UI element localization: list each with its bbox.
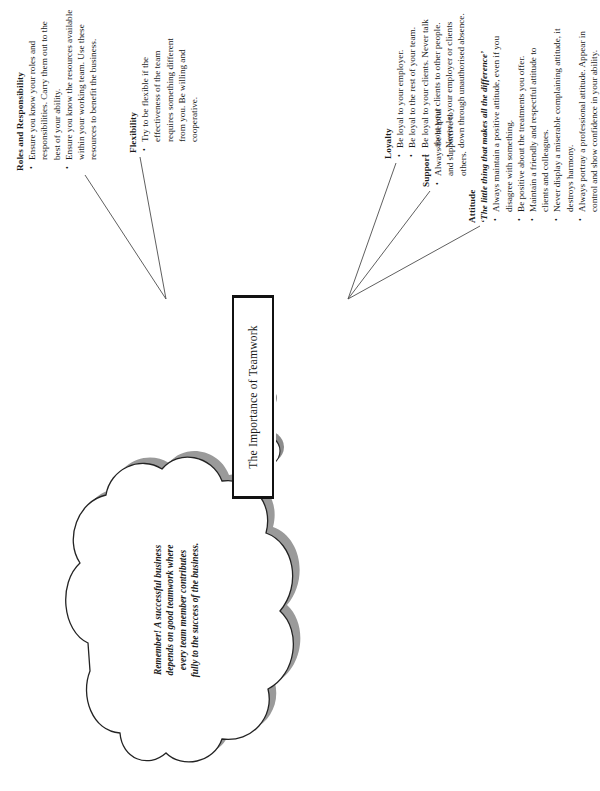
center-node-label: The Importance of Teamwork [247,325,260,469]
branch-support[interactable]: Support Always be helpful and supportive… [420,95,469,187]
cloud-text-line: fully to the success of the business. [189,525,201,695]
branch-bullet-list: Always maintain a positive attitude, eve… [490,23,600,223]
branch-title: Support [420,95,432,187]
branch-bullet-list: Ensure you know your roles and responsib… [26,9,99,171]
connector-flexibility [140,157,166,299]
branch-bullet: Maintain a friendly and respectful attit… [527,23,551,212]
branch-subtitle: ‘The little thing that makes all the dif… [478,23,490,223]
connector-attitude [348,226,480,299]
branch-roles-and-responsibility[interactable]: Roles and Responsibility Ensure you know… [14,9,99,171]
connector-support [348,191,430,299]
branch-flexibility[interactable]: Flexibility Try to be flexible if the ef… [127,33,200,153]
cloud-text-line: Remember! A successful business [152,525,164,695]
center-node-inner: The Importance of Teamwork [233,297,273,497]
center-node[interactable]: The Importance of Teamwork [232,295,274,499]
branch-title: Roles and Responsibility [14,9,26,171]
branch-bullet-list: Try to be flexible if the effectiveness … [139,33,200,153]
branch-bullet: Ensure you know your roles and responsib… [26,9,63,160]
cloud-text-line: every team member contributes [177,525,189,695]
branch-bullet: Try to be flexible if the effectiveness … [139,33,200,142]
branch-attitude[interactable]: Attitude ‘The little thing that makes al… [466,23,600,223]
connector-roles [85,175,166,299]
cloud-text-line: depends on good teamwork where [164,525,176,695]
connector-loyalty [348,163,396,299]
branch-bullet: Be positive about the treatments you off… [515,23,527,212]
branch-title: Loyalty [382,11,394,159]
branch-bullet-list: Always be helpful and supportive to othe… [432,95,469,187]
branch-title: Flexibility [127,33,139,153]
branch-bullet: Never display a miserable complaining at… [551,23,575,212]
branch-bullet: Ensure you know the resources available … [63,9,100,160]
cloud-text: Remember! A successful business depends … [152,525,202,695]
branch-bullet: Always be helpful and supportive to othe… [432,95,469,176]
branch-bullet: Always maintain a positive attitude, eve… [490,23,514,212]
branch-bullet: Be loyal to your employer. [394,11,406,148]
branch-bullet: Always portray a professional attitude. … [576,23,600,212]
branch-title: Attitude [466,23,478,223]
branch-bullet: Be loyal to the rest of your team. [406,11,418,148]
